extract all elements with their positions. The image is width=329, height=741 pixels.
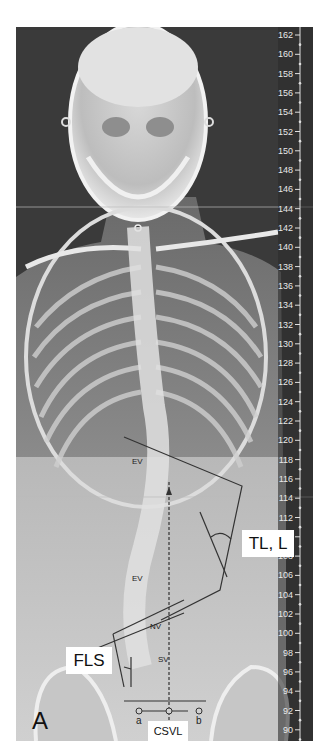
spine-radiograph: 1621601581561541521501481461441421401381…	[16, 27, 313, 741]
ruler-tick-label: 118	[279, 455, 293, 465]
radiograph-anatomy: 1621601581561541521501481461441421401381…	[16, 27, 313, 741]
ruler-tick-label: 128	[278, 358, 293, 368]
label-ev-upper: EV	[132, 457, 143, 466]
ruler-tick-label: 162	[278, 30, 293, 40]
label-tl-l-text: TL, L	[249, 534, 288, 554]
label-fls: FLS	[66, 647, 112, 674]
ruler-tick-label: 114	[279, 493, 293, 503]
ruler-tick-label: 106	[278, 570, 293, 580]
label-nv: NV	[150, 622, 161, 631]
ruler-tick-label: 90	[283, 725, 293, 735]
ruler-tick-label: 142	[278, 223, 293, 233]
ruler-tick-label: 116	[279, 474, 293, 484]
ruler-tick-label: 126	[278, 377, 293, 387]
ruler-tick-label: 130	[278, 339, 293, 349]
ruler-tick-label: 160	[278, 49, 293, 59]
panel-letter: A	[32, 707, 48, 735]
ruler-tick-label: 132	[278, 320, 293, 330]
label-point-b: b	[196, 715, 202, 726]
label-tl-l: TL, L	[242, 530, 294, 557]
ruler-tick-label: 98	[283, 648, 293, 658]
ruler-tick-label: 104	[278, 590, 293, 600]
ruler-tick-label: 154	[278, 107, 293, 117]
ruler-tick-label: 158	[278, 69, 293, 79]
label-fls-text: FLS	[73, 651, 104, 671]
label-csvl-text: CSVL	[154, 725, 183, 737]
ruler-tick-label: 138	[278, 262, 293, 272]
ruler-tick-label: 102	[278, 609, 293, 619]
ruler-tick-label: 146	[278, 184, 293, 194]
ruler-tick-label: 140	[278, 242, 293, 252]
label-sv: SV	[158, 655, 169, 664]
ruler-tick-label: 124	[278, 397, 293, 407]
label-csvl: CSVL	[148, 721, 188, 741]
ruler-tick-label: 134	[278, 300, 293, 310]
ruler-tick-label: 144	[278, 204, 293, 214]
ruler-tick-label: 120	[278, 435, 293, 445]
ruler-tick-label: 96	[283, 667, 293, 677]
ruler-tick-label: 156	[278, 88, 293, 98]
ruler-tick-label: 94	[283, 686, 293, 696]
ruler-tick-label: 92	[283, 706, 293, 716]
ruler-tick-label: 100	[278, 628, 293, 638]
ruler-tick-label: 136	[278, 281, 293, 291]
ruler-tick-label: 152	[278, 127, 293, 137]
label-ev-lower: EV	[132, 574, 143, 583]
ruler-tick-label: 122	[278, 416, 293, 426]
ruler-tick-label: 148	[278, 165, 293, 175]
ruler-tick-label: 112	[279, 513, 293, 523]
ruler-tick-label: 150	[278, 146, 293, 156]
label-point-a: a	[136, 715, 142, 726]
